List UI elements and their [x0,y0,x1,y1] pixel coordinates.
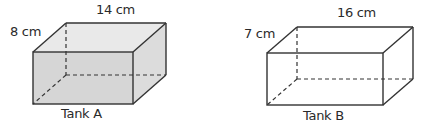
tank-b-width-label: 16 cm [337,5,376,20]
tank-b-edges [267,27,413,105]
tank-a-cuboid [33,23,166,104]
tank-b-name: Tank B [303,108,344,123]
tank-b-cuboid [267,27,413,105]
tank-b-hidden-edges [267,27,413,105]
tank-a-width-label: 14 cm [96,2,135,17]
tank-a-front-face [33,52,133,104]
tank-a-depth-label: 8 cm [10,24,41,39]
tank-a-name: Tank A [61,106,102,121]
tank-b-depth-label: 7 cm [244,26,275,41]
